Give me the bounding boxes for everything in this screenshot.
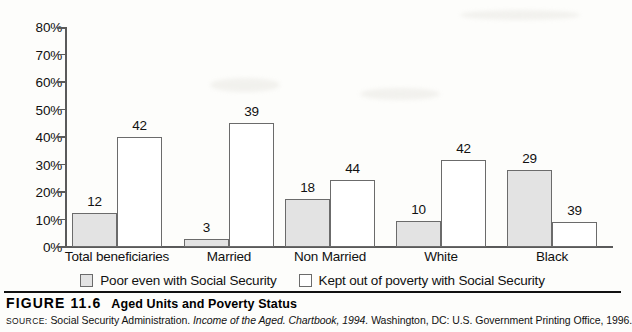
figure-title: Aged Units and Poverty Status [111,297,297,311]
source-text-2: Washington, DC: U.S. Government Printing… [371,314,632,326]
legend-item[interactable]: Kept out of poverty with Social Security [299,273,545,288]
bar-poor[interactable] [184,239,229,247]
y-axis-tick [57,164,66,166]
y-axis-tick [57,219,66,221]
source-italic-1: Income of the Aged. Chartbook, [193,314,339,326]
bar-group: 1242 [72,27,162,247]
bar-value-label: 18 [300,180,315,195]
x-axis-category-label: Black [536,249,568,264]
y-axis-tick-label: 30% [22,157,62,172]
source-italic-2: 1994. [342,314,368,326]
bar-poor[interactable] [285,199,330,247]
chart-legend: Poor even with Social SecurityKept out o… [0,270,625,290]
y-axis-tick [57,191,66,193]
bar-value-label: 12 [87,194,102,209]
bar-value-label: 39 [567,203,582,218]
y-axis-tick-label: 10% [22,212,62,227]
bar-value-label: 39 [244,104,259,119]
bar-poor[interactable] [507,170,552,247]
source-text-1: Social Security Administration. [50,314,190,326]
bar-group: 1042 [396,27,486,247]
legend-label: Kept out of poverty with Social Security [319,273,545,288]
figure-source: SOURCE: Social Security Administration. … [6,314,621,326]
x-axis-category-label: Total beneficiaries [65,249,169,264]
bar-group: 1844 [285,27,375,247]
y-axis-tick [57,246,66,248]
y-axis-tick [57,136,66,138]
x-axis-category-label: Non Married [294,249,366,264]
legend-label: Poor even with Social Security [100,273,276,288]
plot-area: 1242339184410422939 [66,27,613,247]
bar-kept[interactable] [441,160,486,247]
bar-poor[interactable] [396,221,441,247]
bar-value-label: 3 [203,220,210,235]
bar-value-label: 44 [345,161,360,176]
y-axis-tick-label: 50% [22,102,62,117]
legend-item[interactable]: Poor even with Social Security [80,273,276,288]
figure-caption: FIGURE 11.6Aged Units and Poverty Status [6,295,621,311]
source-prefix: SOURCE: [6,316,48,326]
bar-value-label: 29 [522,151,537,166]
x-axis-category-label: White [424,249,458,264]
figure-number: FIGURE 11.6 [6,295,101,311]
bar-value-label: 42 [456,141,471,156]
y-axis-tick-label: 60% [22,75,62,90]
y-axis-tick-label: 0% [22,240,62,255]
y-axis-tick [57,81,66,83]
caption-divider [4,291,621,293]
y-axis-tick-label: 20% [22,185,62,200]
y-axis-tick [57,109,66,111]
legend-swatch-kept [299,274,312,287]
y-axis-tick-label: 70% [22,47,62,62]
bar-group: 339 [184,27,274,247]
y-axis-tick-label: 40% [22,130,62,145]
bar-kept[interactable] [229,123,274,247]
bar-poor[interactable] [72,213,117,247]
legend-swatch-poor [80,274,93,287]
bar-kept[interactable] [117,137,162,247]
bar-value-label: 10 [411,202,426,217]
y-axis-labels: 0%10%20%30%40%50%60%70%80% [14,0,62,268]
bar-kept[interactable] [330,180,375,247]
bar-value-label: 42 [132,118,147,133]
bar-group: 2939 [507,27,597,247]
bar-kept[interactable] [552,222,597,247]
x-axis-category-label: Married [207,249,251,264]
y-axis-tick [57,54,66,56]
y-axis-tick-label: 80% [22,20,62,35]
bar-chart: 0%10%20%30%40%50%60%70%80% 1242339184410… [0,0,625,268]
